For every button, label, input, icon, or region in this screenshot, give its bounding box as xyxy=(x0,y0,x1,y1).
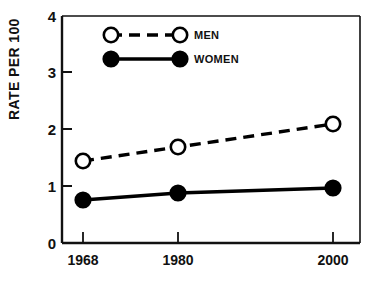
legend-label-men: MEN xyxy=(194,29,219,41)
y-tick-label-3: 3 xyxy=(38,64,56,81)
y-tick-label-2: 2 xyxy=(38,121,56,138)
chart-container: 4 3 2 1 0 RATE PER 100 1968 1980 2000 ME… xyxy=(0,0,374,285)
y-axis-ticks xyxy=(62,72,72,186)
series-women xyxy=(75,180,340,207)
y-tick-label-0: 0 xyxy=(38,235,56,252)
data-point-men-1980 xyxy=(171,140,185,154)
x-tick-label-1968: 1968 xyxy=(53,252,113,268)
legend-men-glyph xyxy=(104,28,187,42)
legend-label-women: WOMEN xyxy=(194,53,239,65)
line-chart-svg xyxy=(0,0,374,285)
data-point-women-2000 xyxy=(325,180,340,195)
x-tick-label-2000: 2000 xyxy=(303,252,363,268)
series-men xyxy=(76,117,340,168)
y-tick-label-4: 4 xyxy=(38,8,56,25)
x-axis-ticks xyxy=(83,232,333,243)
series-men-line xyxy=(83,124,333,161)
data-point-women-1980 xyxy=(170,185,185,200)
data-point-men-1968 xyxy=(76,154,90,168)
y-axis-title: RATE PER 100 xyxy=(6,0,22,120)
series-women-line xyxy=(83,188,333,200)
data-point-women-1968 xyxy=(75,192,90,207)
data-point-men-2000 xyxy=(326,117,340,131)
plot-frame xyxy=(62,16,360,243)
legend-women-glyph xyxy=(103,51,187,66)
x-tick-label-1980: 1980 xyxy=(148,252,208,268)
y-tick-label-1: 1 xyxy=(38,178,56,195)
